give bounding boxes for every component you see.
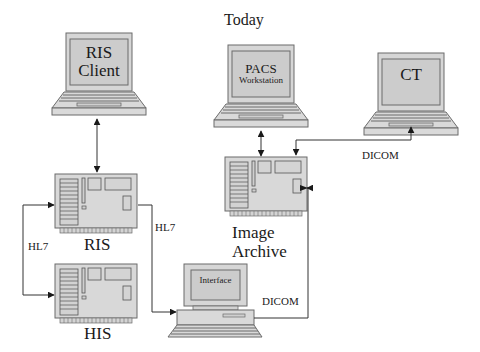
pacs-workstation-label: PACS Workstation	[232, 51, 290, 97]
diagram-title: Today	[224, 12, 264, 28]
ris-server-icon	[55, 174, 137, 233]
ris-client-label: RIS Client	[70, 39, 128, 85]
image-archive-server-icon	[225, 157, 307, 216]
image-archive-label: Image Archive	[232, 224, 287, 261]
interface-label: Interface	[191, 270, 240, 292]
ct-label: CT	[382, 59, 440, 91]
hl7-right-edge-label: HL7	[155, 222, 175, 233]
his-server-icon	[55, 264, 137, 323]
dicom-top-edge-label: DICOM	[362, 150, 399, 161]
dicom-bottom-edge-label: DICOM	[262, 296, 299, 307]
his-label: HIS	[84, 325, 111, 342]
hl7-left-edge-label: HL7	[28, 241, 48, 252]
ris-label: RIS	[84, 236, 110, 253]
